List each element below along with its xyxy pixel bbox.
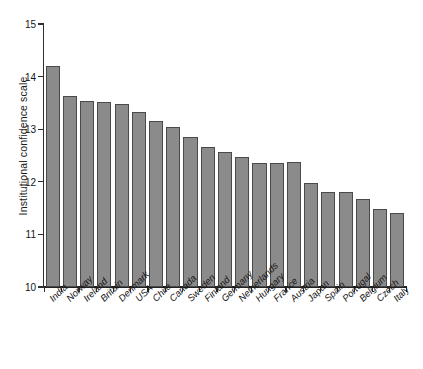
bar	[287, 162, 301, 287]
bar	[63, 96, 77, 287]
y-axis-label: Institutional confidence scale	[17, 31, 29, 261]
bar	[149, 121, 163, 287]
bar	[183, 137, 197, 287]
y-tick-label-13: 13	[20, 124, 36, 135]
bar	[321, 192, 335, 287]
y-tick-label-10: 10	[20, 282, 36, 293]
bar-chart: Institutional confidence scale 101112131…	[0, 0, 423, 369]
bar	[46, 66, 60, 287]
y-tick-label-11: 11	[20, 229, 36, 240]
bar	[235, 157, 249, 287]
bar	[97, 102, 111, 287]
y-tick-label-15: 15	[20, 19, 36, 30]
bar	[166, 127, 180, 287]
bar	[132, 112, 146, 287]
bar	[201, 147, 215, 287]
bar	[218, 152, 232, 287]
y-tick-label-14: 14	[20, 71, 36, 82]
bar	[115, 104, 129, 287]
bar	[80, 101, 94, 287]
plot-area	[44, 24, 406, 287]
bar	[304, 183, 318, 287]
bar	[339, 192, 353, 287]
x-tick	[44, 287, 45, 292]
y-tick-label-12: 12	[20, 176, 36, 187]
